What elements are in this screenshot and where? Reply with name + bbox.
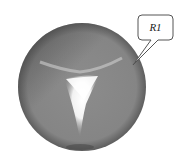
callout-label: R1 [138, 15, 173, 39]
figure: R1 [0, 0, 183, 165]
bottom-shadow [66, 144, 94, 150]
